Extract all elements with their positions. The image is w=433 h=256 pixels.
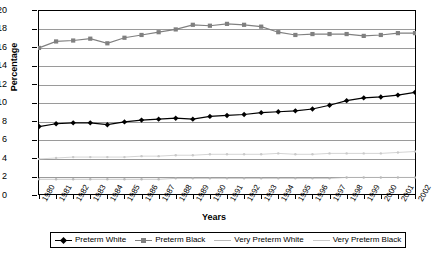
legend-label: Very Preterm White [234,235,303,245]
legend-label: Very Preterm Black [333,235,401,245]
data-point-marker [122,36,126,40]
data-point-marker [379,33,383,37]
data-point-marker [207,114,212,119]
series-lines [38,10,416,195]
series-preterm-black [38,22,416,50]
data-point-marker [414,176,416,178]
data-point-marker [293,108,298,113]
y-tick-label: 20 [0,6,7,15]
data-point-marker [70,120,75,125]
data-point-marker [363,152,365,154]
legend-swatch-icon [55,236,72,244]
data-point-marker [192,177,194,179]
data-point-marker [224,113,229,118]
data-point-marker [380,176,382,178]
data-point-marker [397,151,399,153]
y-tick-mark [32,121,37,122]
data-point-marker [157,30,161,34]
data-point-marker [175,177,177,179]
y-tick-label: 8 [0,117,7,126]
data-point-marker [413,31,416,35]
legend-item-very-preterm-white[interactable]: Very Preterm White [214,235,303,245]
data-point-marker [157,155,159,157]
data-point-marker [192,154,194,156]
data-point-marker [88,37,92,41]
data-point-marker [226,153,228,155]
data-point-marker [38,178,40,180]
data-point-marker [72,156,74,158]
data-point-marker [327,32,331,36]
y-tick-label: 4 [0,154,7,163]
data-point-marker [260,153,262,155]
data-point-marker [361,95,366,100]
data-point-marker [242,23,246,27]
data-point-marker [395,92,400,97]
data-point-marker [139,33,143,37]
series-very-preterm-black [38,150,416,160]
data-point-marker [378,94,383,99]
y-tick-mark [32,66,37,67]
data-point-marker [53,121,58,126]
data-point-marker [140,155,142,157]
data-point-marker [380,152,382,154]
data-point-marker [363,176,365,178]
data-point-marker [344,98,349,103]
y-tick-label: 12 [0,80,7,89]
data-point-marker [105,122,110,127]
y-tick-label: 16 [0,43,7,52]
data-point-marker [294,153,296,155]
data-point-marker [276,109,281,114]
y-tick-mark [32,140,37,141]
data-point-marker [106,178,108,180]
data-point-marker [345,32,349,36]
data-point-marker [174,27,178,31]
y-tick-label: 18 [0,24,7,33]
data-point-marker [396,31,400,35]
data-point-marker [123,178,125,180]
data-point-marker [345,152,347,154]
data-point-marker [157,178,159,180]
data-point-marker [327,103,332,108]
data-point-marker [105,41,109,45]
data-point-marker [209,153,211,155]
series-preterm-white [38,90,416,130]
data-point-marker [311,177,313,179]
data-point-marker [259,25,263,29]
data-point-marker [89,178,91,180]
data-point-marker [294,177,296,179]
y-tick-mark [32,195,37,196]
data-point-marker [277,177,279,179]
legend-swatch-icon [135,236,152,244]
data-point-marker [190,116,195,121]
legend-item-preterm-black[interactable]: Preterm Black [135,235,205,245]
data-point-marker [258,110,263,115]
data-point-marker [209,177,211,179]
y-tick-mark [32,103,37,104]
data-point-marker [89,156,91,158]
data-point-marker [55,178,57,180]
data-point-marker [241,112,246,117]
chart-legend: Preterm WhitePreterm BlackVery Preterm W… [50,232,406,248]
data-point-marker [139,117,144,122]
data-point-marker [191,23,195,27]
data-point-marker [414,150,416,152]
legend-label: Preterm Black [155,235,205,245]
data-point-marker [311,153,313,155]
y-tick-label: 2 [0,172,7,181]
data-point-marker [328,152,330,154]
legend-item-very-preterm-black[interactable]: Very Preterm Black [313,235,401,245]
series-line [39,24,415,48]
y-tick-mark [32,47,37,48]
data-point-marker [243,177,245,179]
x-axis-title: Years [0,212,428,222]
data-point-marker [123,156,125,158]
data-point-marker [277,152,279,154]
x-tick-label: 2002 [417,184,433,203]
data-point-marker [226,177,228,179]
y-tick-mark [32,177,37,178]
y-tick-label: 6 [0,135,7,144]
data-point-marker [412,90,416,95]
y-tick-label: 14 [0,61,7,70]
data-point-marker [397,176,399,178]
legend-item-preterm-white[interactable]: Preterm White [55,235,126,245]
